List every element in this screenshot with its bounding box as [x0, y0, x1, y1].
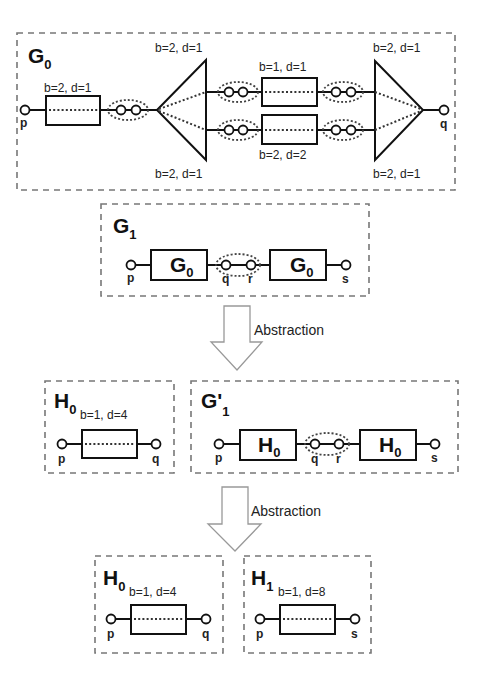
h0-port-q-label: q: [152, 452, 159, 466]
g0-port-p: [21, 106, 30, 115]
h0-title: H0: [54, 389, 76, 417]
g1-port-s-label: s: [342, 272, 349, 286]
h0-port-p-label: p: [58, 452, 65, 466]
abstraction-label-1: Abstraction: [254, 322, 324, 338]
h0-final-port-q-label: q: [202, 627, 209, 641]
h0-final-panel: H0 b=1, d=4 p q: [95, 556, 223, 653]
g0-right-join-bottom-label: b=2, d=1: [373, 167, 421, 181]
abstraction-arrow-2: Abstraction: [208, 487, 321, 551]
g1prime-title: G'1: [201, 389, 230, 419]
h1-port-s-label: s: [351, 627, 358, 641]
g0-left-split-bottom-label: b=2, d=1: [155, 167, 203, 181]
g0-first-block-label: b=2, d=1: [44, 81, 92, 95]
h0-final-title: H0: [103, 566, 125, 594]
h0-final-params: b=1, d=4: [129, 585, 177, 599]
h0-params: b=1, d=4: [80, 408, 128, 422]
h1-port-p-label: p: [256, 627, 263, 641]
g1-dashed-border: [101, 204, 369, 296]
g0-port-q: [440, 106, 449, 115]
g1-title: G1: [113, 214, 137, 242]
g1prime-dashed-border: [191, 381, 458, 473]
g0-mid-top-label: b=1, d=1: [259, 60, 307, 74]
g0-port-q-label: q: [440, 117, 447, 131]
g0-right-join-triangle: [375, 61, 423, 160]
h0-final-port-p-label: p: [107, 627, 114, 641]
h1-panel: H1 b=1, d=8 p s: [244, 556, 371, 653]
g1prime-port-r-label: r: [336, 452, 341, 466]
g0-left-split-top-label: b=2, d=1: [155, 41, 203, 55]
g1-panel: G1 p G0 q r G0 s: [101, 204, 369, 296]
g0-right-join-top-label: b=2, d=1: [373, 41, 421, 55]
h1-title: H1: [251, 566, 273, 594]
g1prime-panel: G'1 p H0 q r H0 s: [191, 381, 458, 473]
g1prime-port-q-label: q: [311, 452, 318, 466]
g0-port-p-label: p: [20, 116, 27, 130]
abstraction-arrow-1: Abstraction: [211, 306, 324, 370]
g1-port-q-label: q: [222, 272, 229, 286]
g1prime-port-s-label: s: [431, 451, 438, 465]
g1-port-p-label: p: [127, 271, 134, 285]
h0-panel: H0 b=1, d=4 p q: [45, 381, 174, 473]
g1prime-port-p-label: p: [215, 451, 222, 465]
g0-panel: G0 b=2, d=1 p b=2, d=1 b=2, d=1 b=1, d=1: [17, 33, 455, 190]
g0-mid-bottom-label: b=2, d=2: [259, 148, 307, 162]
g0-left-split-triangle: [157, 60, 206, 160]
abstraction-label-2: Abstraction: [251, 503, 321, 519]
g0-title: G0: [28, 44, 52, 72]
h1-params: b=1, d=8: [278, 585, 326, 599]
g1-port-r-label: r: [248, 272, 253, 286]
